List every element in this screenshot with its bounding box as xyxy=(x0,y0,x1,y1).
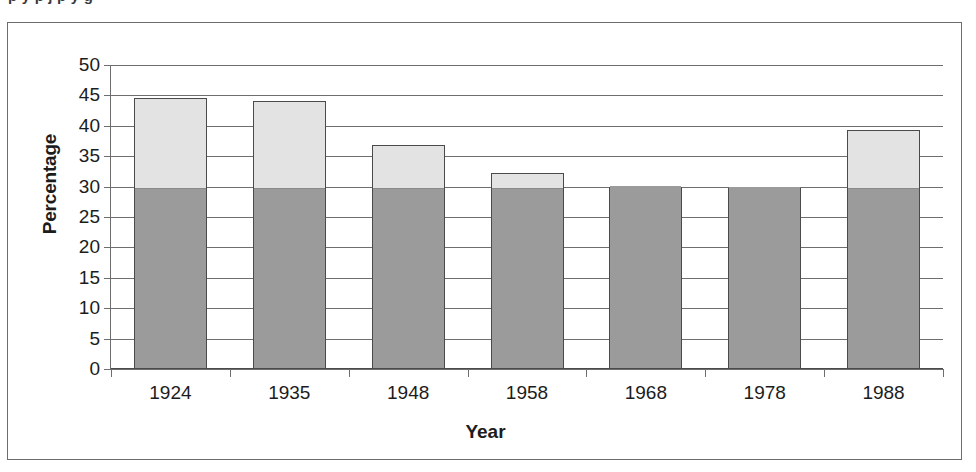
y-tick-label: 5 xyxy=(89,327,100,349)
x-tick-label-1948: 1948 xyxy=(387,382,429,404)
y-tick-label: 25 xyxy=(79,206,100,228)
y-tick-label: 50 xyxy=(79,54,100,76)
bar-segment-lower xyxy=(848,186,919,368)
y-axis-title: Percentage xyxy=(39,104,61,264)
y-tick-label: 30 xyxy=(79,175,100,197)
x-tick-label-1968: 1968 xyxy=(625,382,667,404)
x-tick-mark xyxy=(468,369,469,377)
y-tick-mark-0 xyxy=(104,369,111,370)
x-tick-mark xyxy=(705,369,706,377)
bar-1958 xyxy=(491,173,564,369)
bar-1988 xyxy=(847,130,920,369)
gridline-45 xyxy=(111,95,943,96)
bar-1924 xyxy=(134,98,207,369)
gridline-50 xyxy=(111,65,943,66)
y-tick-mark-45 xyxy=(104,95,111,96)
gridline-35 xyxy=(111,156,943,157)
bar-segment-divider xyxy=(373,188,444,189)
x-tick-label-1988: 1988 xyxy=(862,382,904,404)
bar-segment-lower xyxy=(492,186,563,368)
x-tick-mark xyxy=(824,369,825,377)
bar-1948 xyxy=(372,145,445,369)
bar-1978 xyxy=(728,188,801,369)
bar-segment-upper xyxy=(848,131,919,188)
x-axis-title: Year xyxy=(8,421,963,443)
y-tick-mark-35 xyxy=(104,156,111,157)
y-tick-label: 0 xyxy=(89,358,100,380)
bar-segment-divider xyxy=(492,188,563,189)
x-tick-mark xyxy=(349,369,350,377)
x-tick-label-1935: 1935 xyxy=(268,382,310,404)
y-tick-label: 35 xyxy=(79,145,100,167)
x-tick-mark xyxy=(586,369,587,377)
bar-1968 xyxy=(609,187,682,369)
bar-segment-divider xyxy=(135,188,206,189)
y-tick-label: 45 xyxy=(79,84,100,106)
bar-segment-upper xyxy=(254,102,325,187)
x-tick-mark xyxy=(111,369,112,377)
bar-segment-divider xyxy=(254,188,325,189)
y-tick-mark-20 xyxy=(104,247,111,248)
x-tick-mark xyxy=(230,369,231,377)
bar-segment-divider xyxy=(848,188,919,189)
y-tick-label: 10 xyxy=(79,297,100,319)
bar-segment-lower xyxy=(729,187,800,368)
y-tick-mark-50 xyxy=(104,65,111,66)
y-tick-label: 20 xyxy=(79,236,100,258)
plot-area: 05101520253035404550 1924193519481958196… xyxy=(111,65,943,369)
bar-segment-upper xyxy=(135,99,206,188)
x-tick-label-1978: 1978 xyxy=(744,382,786,404)
y-tick-mark-40 xyxy=(104,126,111,127)
cut-off-caption-remnant: p y p j p y g xyxy=(0,0,976,12)
y-tick-mark-5 xyxy=(104,339,111,340)
gridline-40 xyxy=(111,126,943,127)
bar-segment-upper xyxy=(373,146,444,187)
caption-remnant-text: p y p j p y g xyxy=(8,0,93,4)
bar-segment-lower xyxy=(610,186,681,368)
gridline-0 xyxy=(111,369,943,370)
y-tick-mark-30 xyxy=(104,187,111,188)
figure-frame: Percentage Year 05101520253035404550 192… xyxy=(7,22,962,460)
bar-1935 xyxy=(253,101,326,369)
y-tick-mark-15 xyxy=(104,278,111,279)
bar-segment-lower xyxy=(135,186,206,368)
bar-segment-lower xyxy=(254,186,325,368)
y-tick-label: 40 xyxy=(79,114,100,136)
x-tick-label-1958: 1958 xyxy=(506,382,548,404)
bar-segment-lower xyxy=(373,186,444,368)
y-tick-mark-25 xyxy=(104,217,111,218)
x-tick-label-1924: 1924 xyxy=(149,382,191,404)
y-tick-label: 15 xyxy=(79,266,100,288)
y-tick-mark-10 xyxy=(104,308,111,309)
bar-segment-upper xyxy=(492,174,563,188)
x-tick-mark xyxy=(943,369,944,377)
